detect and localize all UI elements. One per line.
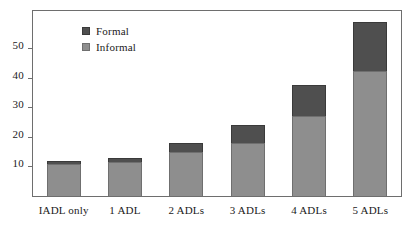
bar-group (47, 161, 81, 196)
bar-group (292, 85, 326, 196)
y-axis-tick-label: 40 (13, 70, 24, 81)
x-axis-tick-label: 2 ADLs (156, 204, 217, 216)
legend-item-formal: Formal (82, 24, 136, 38)
bar-stack (47, 161, 81, 196)
y-axis-tick-label: 20 (13, 129, 24, 140)
x-axis-tick-label: IADL only (33, 204, 94, 216)
y-axis-tick-label: 50 (13, 40, 24, 51)
bar-segment-formal (231, 125, 265, 143)
bar-segment-informal (47, 164, 81, 196)
legend-item-label: Informal (96, 42, 136, 53)
bar-segment-formal (353, 22, 387, 71)
y-axis: 1020304050 (0, 0, 33, 197)
bar-group (353, 22, 387, 196)
legend-item-label: Formal (96, 26, 129, 37)
y-axis-tick-label: 30 (13, 99, 24, 110)
bar-stack (169, 143, 203, 196)
bar-segment-formal (169, 143, 203, 152)
bar-segment-informal (108, 162, 142, 196)
legend-swatch-icon (82, 43, 90, 51)
legend-item-informal: Informal (82, 40, 136, 54)
chart-legend: FormalInformal (82, 24, 136, 56)
bar-group (169, 143, 203, 196)
bar-segment-informal (353, 71, 387, 196)
bar-stack (108, 158, 142, 196)
bar-group (108, 158, 142, 196)
x-axis-tick-label: 3 ADLs (217, 204, 278, 216)
x-axis-tick-label: 4 ADLs (278, 204, 339, 216)
y-axis-tick-label: 10 (13, 158, 24, 169)
x-axis-tick-label: 5 ADLs (340, 204, 401, 216)
bar-group (231, 125, 265, 196)
bar-segment-informal (292, 116, 326, 196)
bar-stack (292, 85, 326, 196)
bar-segment-informal (169, 152, 203, 196)
x-axis-tick-label: 1 ADL (94, 204, 155, 216)
x-axis: IADL only1 ADL2 ADLs3 ADLs4 ADLs5 ADLs (33, 200, 401, 224)
bar-stack (353, 22, 387, 196)
bar-stack (231, 125, 265, 196)
bar-segment-formal (292, 85, 326, 116)
stacked-bar-chart: 1020304050 IADL only1 ADL2 ADLs3 ADLs4 A… (0, 0, 410, 236)
bar-segment-informal (231, 143, 265, 196)
legend-swatch-icon (82, 27, 90, 35)
